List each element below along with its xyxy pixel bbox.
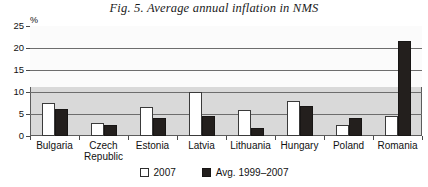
legend-label: 2007	[154, 167, 176, 178]
y-tick-label-25: 25	[2, 21, 24, 31]
category-label-hungary: Hungary	[275, 140, 324, 151]
bar-lithuania-avg	[251, 128, 264, 136]
category-label-poland: Poland	[324, 140, 373, 151]
black-square-icon	[202, 168, 211, 177]
category-label-lithuania: Lithuania	[226, 140, 275, 151]
category-label-romania: Romania	[373, 140, 422, 151]
legend-item-2007[interactable]: 2007	[140, 167, 176, 178]
bar-latvia-avg	[202, 116, 215, 136]
y-tick-label-10: 10	[2, 87, 24, 97]
figure-title: Fig. 5. Average annual inflation in NMS	[0, 1, 428, 16]
category-label-estonia: Estonia	[128, 140, 177, 151]
bar-hungary-2007	[287, 101, 300, 136]
x-tick-end	[422, 136, 423, 140]
y-tick-label-20: 20	[2, 43, 24, 53]
bar-poland-avg	[349, 118, 362, 136]
bars-layer	[30, 26, 422, 136]
bar-czech-republic-avg	[104, 125, 117, 136]
chart-legend: 2007Avg. 1999–2007	[0, 167, 428, 178]
bar-poland-2007	[336, 125, 349, 136]
y-axis-unit-label: %	[30, 15, 38, 25]
bar-romania-avg	[398, 41, 411, 136]
y-tick-mark-20	[26, 48, 30, 49]
bar-latvia-2007	[189, 92, 202, 136]
bar-estonia-avg	[153, 118, 166, 136]
bar-bulgaria-2007	[42, 103, 55, 136]
y-tick-label-0: 0	[2, 131, 24, 141]
white-square-icon	[140, 168, 149, 177]
bar-estonia-2007	[140, 107, 153, 136]
bar-lithuania-2007	[238, 110, 251, 136]
y-tick-mark-5	[26, 114, 30, 115]
y-tick-mark-15	[26, 70, 30, 71]
bar-czech-republic-2007	[91, 123, 104, 136]
bar-hungary-avg	[300, 106, 313, 136]
y-tick-mark-25	[26, 26, 30, 27]
y-tick-label-5: 5	[2, 109, 24, 119]
legend-label: Avg. 1999–2007	[216, 167, 289, 178]
category-label-latvia: Latvia	[177, 140, 226, 151]
bar-bulgaria-avg	[55, 109, 68, 136]
y-tick-label-15: 15	[2, 65, 24, 75]
category-label-czech-republic: Czech Republic	[79, 140, 128, 162]
category-label-bulgaria: Bulgaria	[30, 140, 79, 151]
y-tick-mark-10	[26, 92, 30, 93]
figure-container: Fig. 5. Average annual inflation in NMS …	[0, 0, 428, 187]
plot-area	[30, 26, 422, 136]
bar-romania-2007	[385, 116, 398, 136]
legend-item-avg-1999-2007[interactable]: Avg. 1999–2007	[202, 167, 289, 178]
